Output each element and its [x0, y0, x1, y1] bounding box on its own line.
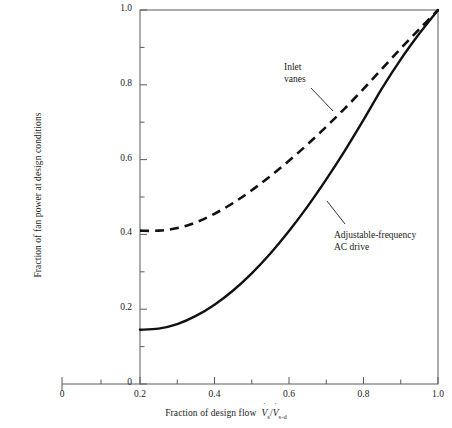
x-tick-label: 1.0	[418, 389, 452, 399]
y-tick-label: 0.8	[96, 78, 132, 88]
annotation-ac-drive: Adjustable-frequency AC drive	[334, 229, 416, 253]
y-tick-label: 0	[96, 377, 132, 387]
y-axis-title: Fraction of fan power at design conditio…	[33, 95, 43, 295]
series-inlet-vanes-curve	[140, 10, 438, 231]
annotation-inlet-vanes: Inlet vanes	[284, 61, 306, 85]
vdot-numerator: ˙V	[261, 408, 267, 418]
x-tick-label: 0	[42, 389, 82, 399]
y-tick-label: 0.4	[96, 227, 132, 237]
fan-power-vs-flow-chart: 00.20.40.60.81.0 00.20.40.60.81.0 Fracti…	[0, 0, 452, 428]
data-series-group	[140, 10, 438, 330]
dot-accent-icon: ˙	[263, 403, 266, 411]
annotation-inlet-vanes-line1: Inlet	[284, 61, 306, 73]
y-tick-label: 0.2	[96, 302, 132, 312]
y-tick-label: 0.6	[96, 153, 132, 163]
x-axis-major-ticks	[140, 377, 438, 384]
vdot-denominator: ˙V	[273, 408, 279, 418]
x-tick-label: 0.4	[195, 389, 235, 399]
annotation-inlet-vanes-line2: vanes	[284, 73, 306, 85]
v-num-sub: s	[267, 413, 270, 420]
y-tick-label: 1.0	[96, 3, 132, 13]
x-tick-label: 0.8	[344, 389, 384, 399]
v-den-sub: s-d	[279, 413, 287, 420]
annotation-leader-lines	[311, 88, 345, 224]
x-tick-label: 0.6	[269, 389, 309, 399]
chart-canvas	[0, 0, 452, 428]
annotation-ac-drive-line1: Adjustable-frequency	[334, 229, 416, 241]
x-axis-title-text: Fraction of design flow	[165, 408, 256, 418]
annotation-ac-drive-line2: AC drive	[334, 241, 416, 253]
y-axis-minor-ticks	[140, 47, 145, 346]
x-axis-symbol: ˙Vs/˙Vs-d	[259, 408, 287, 418]
dot-accent-icon-2: ˙	[274, 403, 277, 411]
x-tick-label: 0.2	[120, 389, 160, 399]
x-axis-title: Fraction of design flow ˙Vs/˙Vs-d	[0, 408, 452, 420]
